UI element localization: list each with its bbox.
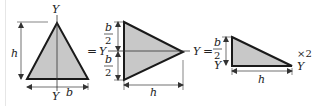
triangle-shape xyxy=(232,37,292,66)
axis-label-y-bottom: Y xyxy=(52,90,61,103)
axis-label-y-right: Y xyxy=(297,60,306,73)
base-label: b xyxy=(66,86,73,99)
figure-3-triangle: b 2 Y Y h ×2 xyxy=(213,36,312,86)
half-top-numerator: b xyxy=(105,21,112,34)
diagram-canvas: Y Y h b = b 2 b 2 Y Y h xyxy=(0,0,317,106)
height-label: h xyxy=(11,47,18,60)
figure-1-triangle: Y Y h b xyxy=(11,3,88,103)
figure-2-triangle: b 2 b 2 Y Y h xyxy=(99,21,202,99)
equals-sign-2: = xyxy=(203,44,213,58)
length-label: h xyxy=(150,86,157,99)
axis-label-y-left: Y xyxy=(214,59,223,72)
multiplier-label: ×2 xyxy=(297,48,312,59)
length-label: h xyxy=(258,73,265,86)
equals-sign-1: = xyxy=(87,44,97,58)
triangle-shape xyxy=(27,23,88,79)
axis-label-y-top: Y xyxy=(52,3,61,16)
triangle-area-decomposition-diagram: Y Y h b = b 2 b 2 Y Y h xyxy=(0,0,317,106)
half-bottom-denominator: 2 xyxy=(105,67,111,78)
half-numerator: b xyxy=(214,36,221,49)
axis-label-y-right: Y xyxy=(193,45,202,58)
